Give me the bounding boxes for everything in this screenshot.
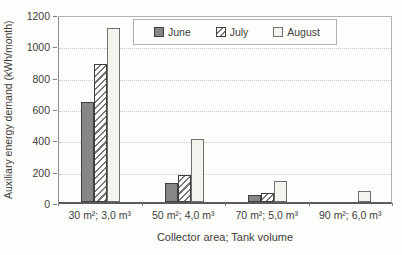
- bar-august-3: [358, 191, 371, 202]
- y-tick-mark-0: [53, 204, 57, 205]
- y-tick-label-600: 600: [0, 105, 50, 116]
- bar-august-0: [107, 28, 120, 202]
- bar-august-1: [191, 139, 204, 202]
- x-tick-mark-2: [225, 203, 226, 206]
- legend-label-july: July: [230, 26, 249, 38]
- y-tick-label-200: 200: [0, 168, 50, 179]
- legend-label-june: June: [168, 26, 191, 38]
- bar-july-1: [178, 175, 191, 202]
- legend-entry-july: July: [216, 26, 249, 38]
- bar-july-2: [261, 193, 274, 202]
- x-category-label-0: 30 m²; 3,0 m³: [58, 209, 142, 221]
- y-tick-label-1200: 1200: [0, 11, 50, 22]
- bar-chart: Auxiliary energy demand (kWh/month) June…: [0, 0, 402, 255]
- x-axis-title: Collector area; Tank volume: [58, 231, 392, 243]
- legend-swatch-july: [216, 27, 226, 37]
- bar-august-2: [274, 181, 287, 202]
- plot-area: JuneJulyAugust: [58, 16, 392, 204]
- y-tick-mark-200: [53, 173, 57, 174]
- legend-swatch-august: [273, 27, 283, 37]
- y-tick-label-1000: 1000: [0, 42, 50, 53]
- y-tick-mark-1000: [53, 47, 57, 48]
- legend-entry-august: August: [273, 26, 320, 38]
- legend-label-august: August: [287, 26, 320, 38]
- bar-july-0: [94, 64, 107, 202]
- y-tick-label-800: 800: [0, 74, 50, 85]
- x-category-label-3: 90 m²; 6,0 m³: [309, 209, 393, 221]
- legend-entry-june: June: [154, 26, 191, 38]
- x-tick-mark-1: [142, 203, 143, 206]
- x-tick-mark-4: [392, 203, 393, 206]
- y-tick-mark-400: [53, 141, 57, 142]
- bar-june-1: [165, 183, 178, 202]
- x-category-label-2: 70 m²; 5,0 m³: [225, 209, 309, 221]
- y-tick-label-400: 400: [0, 136, 50, 147]
- legend-swatch-june: [154, 27, 164, 37]
- y-tick-mark-800: [53, 79, 57, 80]
- bar-june-0: [81, 102, 94, 202]
- y-tick-mark-600: [53, 110, 57, 111]
- y-tick-label-0: 0: [0, 199, 50, 210]
- x-tick-mark-0: [58, 203, 59, 206]
- y-tick-mark-1200: [53, 16, 57, 17]
- x-tick-mark-3: [309, 203, 310, 206]
- x-category-label-1: 50 m²; 4,0 m³: [142, 209, 226, 221]
- bar-june-2: [248, 195, 261, 202]
- legend: JuneJulyAugust: [133, 19, 337, 45]
